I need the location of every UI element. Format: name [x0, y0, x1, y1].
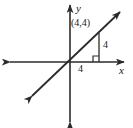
x-axis-label: x	[119, 65, 124, 76]
graph-canvas	[0, 0, 133, 128]
point-coordinate-label: (4,4)	[71, 18, 90, 28]
run-length-label: 4	[78, 64, 83, 74]
coordinate-plane-figure: y x (4,4) 4 4	[0, 0, 133, 128]
y-axis-label: y	[76, 3, 81, 14]
right-angle-marker	[93, 56, 99, 62]
rise-length-label: 4	[103, 40, 108, 50]
